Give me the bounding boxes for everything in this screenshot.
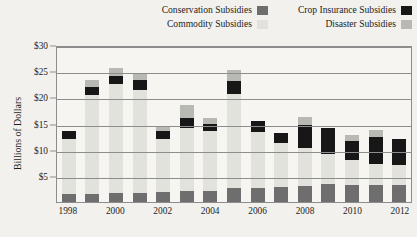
- legend-label-commodity: Commodity Subsidies: [167, 18, 252, 30]
- plot-area: [56, 46, 412, 203]
- y-axis: Billions of Dollars $30$25$20$15$10$5: [0, 46, 52, 203]
- bar-segment: [62, 139, 76, 193]
- bar-segment: [156, 139, 170, 192]
- x-axis-tick-label: 2006: [248, 206, 267, 217]
- bar-segment: [133, 193, 147, 202]
- bar-segment: [109, 84, 123, 192]
- chart-legend: Conservation Subsidies Crop Insurance Su…: [96, 3, 412, 31]
- gridline: [57, 152, 411, 153]
- bar-segment: [109, 76, 123, 84]
- y-axis-title: Billions of Dollars: [12, 69, 23, 199]
- x-axis: 19982000200220042006200820102012: [56, 206, 412, 222]
- bar-segment: [227, 70, 241, 81]
- bar-segment: [274, 143, 288, 187]
- bar-segment: [85, 95, 99, 193]
- x-axis-tick-label: 2004: [201, 206, 220, 217]
- gridline: [57, 178, 411, 179]
- bar-segment: [392, 165, 406, 185]
- bar-segment: [180, 191, 194, 202]
- legend-label-disaster: Disaster Subsidies: [325, 18, 396, 30]
- bar-segment: [321, 128, 335, 154]
- legend-swatch-conservation: [257, 6, 268, 15]
- bar-segment: [85, 80, 99, 88]
- bar-segment: [203, 191, 217, 203]
- bar-segment: [345, 141, 359, 160]
- x-axis-tick-label: 1998: [58, 206, 77, 217]
- gridline: [57, 73, 411, 74]
- bar-segment: [62, 131, 76, 139]
- bar-segment: [180, 105, 194, 118]
- x-axis-tick-label: 2012: [391, 206, 410, 217]
- gridline: [57, 126, 411, 127]
- x-axis-tick-label: 2002: [153, 206, 172, 217]
- bar-segment: [85, 87, 99, 95]
- bar-segment: [180, 118, 194, 128]
- bar-segment: [298, 148, 312, 186]
- bar-segment: [251, 121, 265, 132]
- bar-segment: [369, 185, 383, 202]
- legend-item-disaster: Disaster Subsidies: [268, 18, 412, 30]
- y-axis-tick-label: $25: [34, 67, 48, 77]
- bar-segment: [109, 193, 123, 202]
- y-axis-tick-label: $15: [34, 120, 48, 130]
- y-axis-tick-label: $30: [34, 41, 48, 51]
- bar-segment: [133, 80, 147, 90]
- x-axis-tick-label: 2000: [106, 206, 125, 217]
- bar-segment: [298, 117, 312, 125]
- legend-swatch-disaster: [401, 20, 412, 29]
- bar-segment: [156, 192, 170, 202]
- bar-segment: [203, 131, 217, 190]
- legend-item-crop-insurance: Crop Insurance Subsidies: [268, 4, 412, 16]
- gridline: [57, 47, 411, 48]
- bar-segment: [156, 131, 170, 139]
- bar-segment: [251, 188, 265, 202]
- bar-segment: [180, 128, 194, 191]
- bar-segment: [274, 133, 288, 143]
- legend-swatch-commodity: [257, 20, 268, 29]
- legend-label-crop-insurance: Crop Insurance Subsidies: [298, 4, 396, 16]
- y-axis-tick-label: $5: [39, 172, 48, 182]
- bar-segment: [345, 185, 359, 202]
- bar-segment: [369, 137, 383, 164]
- bar-segment: [227, 188, 241, 202]
- bar-segment: [392, 185, 406, 202]
- bar-segment: [251, 132, 265, 188]
- bar-segment: [274, 187, 288, 202]
- bar-segment: [109, 68, 123, 76]
- bar-segment: [298, 125, 312, 148]
- legend-item-commodity: Commodity Subsidies: [96, 18, 268, 30]
- legend-item-conservation: Conservation Subsidies: [96, 4, 268, 16]
- bar-segment: [227, 94, 241, 188]
- bar-segment: [369, 164, 383, 185]
- y-axis-tick-label: $20: [34, 93, 48, 103]
- bar-segment: [85, 194, 99, 202]
- subsidies-stacked-bar-chart: Conservation Subsidies Crop Insurance Su…: [0, 0, 417, 237]
- bar-segment: [62, 194, 76, 202]
- bar-segment: [321, 184, 335, 202]
- x-axis-tick-label: 2010: [343, 206, 362, 217]
- y-axis-tick-label: $10: [34, 146, 48, 156]
- bar-segment: [298, 186, 312, 202]
- x-axis-tick-label: 2008: [296, 206, 315, 217]
- bar-segment: [321, 154, 335, 184]
- legend-label-conservation: Conservation Subsidies: [162, 4, 252, 16]
- bar-segment: [227, 81, 241, 95]
- legend-swatch-crop-insurance: [401, 6, 412, 15]
- gridline: [57, 99, 411, 100]
- bar-segment: [345, 160, 359, 185]
